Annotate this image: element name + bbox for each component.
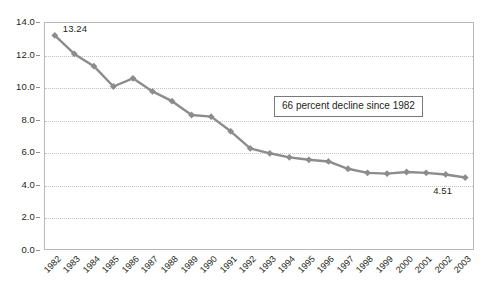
series-line: [45, 23, 475, 251]
x-tick-label: 1989: [179, 254, 200, 275]
data-point-label: 13.24: [63, 24, 87, 34]
y-tick-mark: [36, 87, 40, 88]
y-tick-label: 12.0: [16, 50, 35, 60]
y-tick-label: 2.0: [21, 213, 35, 223]
x-tick-label: 1983: [62, 254, 83, 275]
y-tick-label: 6.0: [21, 148, 35, 158]
x-tick-label: 1992: [238, 254, 259, 275]
y-tick-label: 10.0: [16, 82, 35, 92]
x-tick-label: 2001: [414, 254, 435, 275]
data-point-marker: [364, 169, 371, 176]
x-tick-label: 1987: [140, 254, 161, 275]
y-tick-label: 4.0: [21, 180, 35, 190]
y-tick-mark: [36, 152, 40, 153]
y-tick-mark: [36, 217, 40, 218]
data-point-marker: [403, 169, 410, 176]
x-tick-label: 2002: [433, 254, 454, 275]
data-point-marker: [442, 171, 449, 178]
data-point-marker: [384, 170, 391, 177]
line-chart: 14.012.010.08.06.04.02.00.0 13.244.51 19…: [0, 0, 498, 286]
x-tick-label: 1990: [199, 254, 220, 275]
x-tick-label: 1986: [120, 254, 141, 275]
x-tick-label: 1988: [159, 254, 180, 275]
x-tick-label: 1985: [101, 254, 122, 275]
data-point-marker: [345, 165, 352, 172]
x-tick-label: 1996: [316, 254, 337, 275]
data-point-marker: [305, 156, 312, 163]
y-tick-label: 0.0: [21, 245, 35, 255]
x-tick-label: 1999: [374, 254, 395, 275]
y-tick-mark: [36, 250, 40, 251]
x-tick-label: 1994: [277, 254, 298, 275]
x-axis: 1982198319841985198619871988198919901991…: [44, 250, 474, 286]
x-tick-label: 2003: [453, 254, 474, 275]
data-point-marker: [325, 158, 332, 165]
data-point-marker: [423, 169, 430, 176]
x-tick-label: 1998: [355, 254, 376, 275]
data-point-label: 4.51: [433, 186, 452, 196]
x-tick-label: 1991: [218, 254, 239, 275]
x-tick-label: 2000: [394, 254, 415, 275]
data-point-marker: [286, 154, 293, 161]
x-tick-label: 1997: [335, 254, 356, 275]
plot-area: 13.244.51: [44, 22, 474, 250]
y-tick-label: 8.0: [21, 115, 35, 125]
y-tick-mark: [36, 22, 40, 23]
y-axis: 14.012.010.08.06.04.02.00.0: [0, 22, 40, 250]
data-point-marker: [462, 174, 469, 181]
x-tick-label: 1995: [296, 254, 317, 275]
y-tick-mark: [36, 55, 40, 56]
y-tick-label: 14.0: [16, 17, 35, 27]
data-point-marker: [266, 150, 273, 157]
x-tick-label: 1993: [257, 254, 278, 275]
annotation-callout: 66 percent decline since 1982: [274, 96, 423, 117]
y-tick-mark: [36, 120, 40, 121]
x-tick-label: 1982: [42, 254, 63, 275]
x-tick-label: 1984: [81, 254, 102, 275]
y-tick-mark: [36, 185, 40, 186]
